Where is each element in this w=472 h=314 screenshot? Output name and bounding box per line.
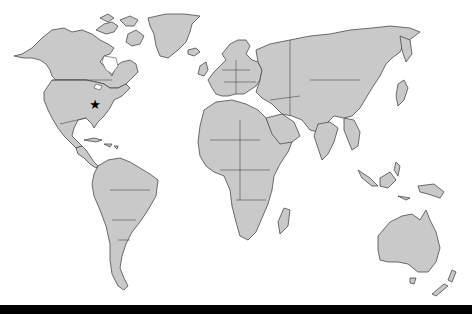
madagascar [278, 208, 290, 234]
southeast-asia [344, 118, 360, 150]
caribbean-islands [84, 138, 118, 149]
australia [378, 210, 440, 272]
central-america [76, 146, 98, 168]
south-america [92, 158, 158, 290]
japan [396, 80, 408, 106]
world-map: ★ [0, 0, 472, 305]
tasmania [410, 278, 416, 284]
star-icon: ★ [89, 97, 101, 112]
maritime-southeast-asia [358, 162, 444, 200]
iceland [188, 48, 200, 56]
bottom-bar [0, 305, 472, 314]
europe [208, 40, 262, 96]
british-isles [198, 62, 208, 76]
kamchatka [400, 36, 412, 62]
india [314, 122, 338, 160]
north-america-south [44, 80, 130, 148]
new-zealand [432, 270, 456, 296]
north-america-north [14, 28, 138, 88]
